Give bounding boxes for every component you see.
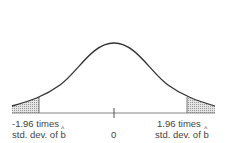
b-hat-symbol: b bbox=[203, 129, 208, 140]
left-critical-label: -1.96 times std. dev. of b bbox=[12, 118, 66, 140]
center-label: 0 bbox=[111, 129, 116, 140]
b-hat-symbol: b bbox=[60, 129, 65, 140]
bell-curve bbox=[12, 43, 215, 106]
right-critical-label: 1.96 times std. dev. of b bbox=[155, 118, 209, 140]
